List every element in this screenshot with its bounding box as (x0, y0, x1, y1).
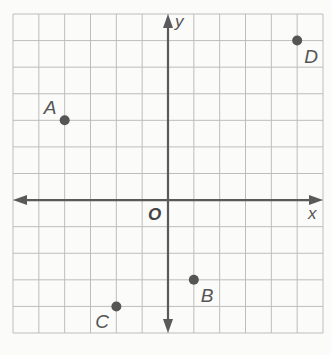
point-marker-icon (189, 275, 199, 285)
coordinate-plane-figure: x y O ABCD (0, 0, 331, 355)
point-label: D (304, 46, 318, 67)
y-axis-down-arrow-icon (163, 319, 173, 333)
x-axis-left-arrow-icon (13, 195, 27, 205)
y-axis-up-arrow-icon (163, 14, 173, 28)
point-marker-icon (292, 36, 302, 46)
coordinate-plane: x y O ABCD (0, 0, 331, 355)
point-marker-icon (60, 115, 70, 125)
axis-labels: x y O (148, 12, 317, 224)
point-label: C (95, 311, 109, 332)
y-axis-label: y (174, 12, 185, 31)
point-marker-icon (111, 301, 121, 311)
plotted-points: ABCD (43, 36, 319, 333)
x-axis-label: x (307, 204, 317, 223)
point-a: A (43, 97, 70, 125)
origin-label: O (148, 205, 161, 224)
point-label: B (201, 285, 214, 306)
point-label: A (43, 97, 57, 118)
